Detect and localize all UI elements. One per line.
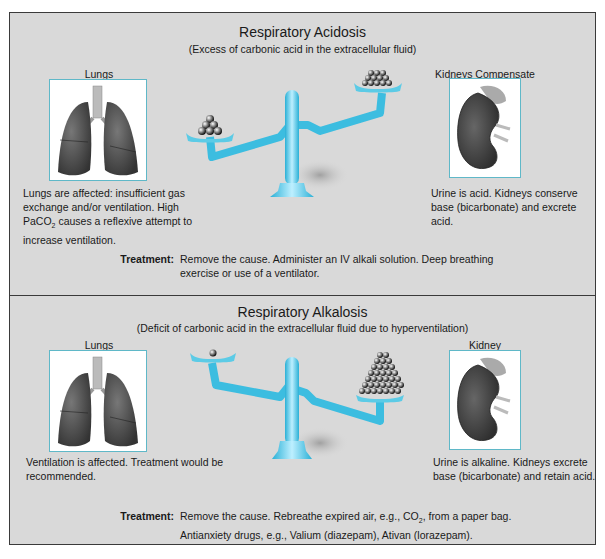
acidosis-subtitle: (Excess of carbonic acid in the extracel… bbox=[0, 43, 605, 55]
base-balls-left bbox=[198, 115, 222, 135]
alkalosis-lungs-description: Ventilation is affected. Treatment would… bbox=[26, 455, 226, 483]
acid-balls-right bbox=[362, 70, 392, 86]
kidney-icon bbox=[450, 351, 519, 448]
alkalosis-kidney-description: Urine is alkaline. Kidneys excrete base … bbox=[433, 455, 603, 483]
alkalosis-treatment: Treatment: Remove the cause. Rebreathe e… bbox=[110, 509, 550, 539]
section-divider bbox=[9, 295, 596, 296]
acidosis-title: Respiratory Acidosis bbox=[0, 24, 605, 40]
acidosis-lungs-box bbox=[49, 79, 147, 181]
alkalosis-title: Respiratory Alkalosis bbox=[0, 304, 605, 320]
treatment-label: Treatment: bbox=[110, 252, 174, 266]
alkalosis-lungs-box bbox=[49, 350, 147, 452]
kidney-icon bbox=[450, 79, 519, 176]
balls-pyramid-right bbox=[359, 352, 404, 394]
lungs-icon bbox=[50, 351, 145, 450]
balance-scale-icon bbox=[180, 55, 420, 205]
single-ball-left bbox=[210, 350, 217, 357]
acidosis-kidney-box bbox=[449, 78, 521, 178]
lungs-icon bbox=[50, 80, 145, 179]
alkalosis-kidney-box bbox=[449, 350, 521, 450]
treatment-label: Treatment: bbox=[110, 509, 174, 523]
acidosis-treatment: Treatment: Remove the cause. Administer … bbox=[110, 252, 530, 282]
acidosis-lungs-description: Lungs are affected: insufficient gas exc… bbox=[23, 186, 203, 247]
alkalosis-subtitle: (Deficit of carbonic acid in the extrace… bbox=[0, 322, 605, 334]
acidosis-kidney-description: Urine is acid. Kidneys conserve base (bi… bbox=[431, 186, 596, 228]
